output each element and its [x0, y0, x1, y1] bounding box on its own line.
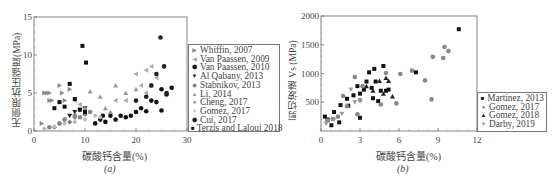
- data-point: [423, 78, 428, 83]
- scatter-plot-b: 500100015002000036912: [0, 0, 556, 184]
- figure-b: 500100015002000036912 剪切波速 Vs (MPa) 碳酸钙含…: [0, 0, 556, 184]
- data-point: [410, 68, 415, 73]
- data-point: [352, 100, 357, 105]
- data-point: [358, 92, 362, 96]
- data-point: [332, 110, 336, 114]
- data-point: [365, 80, 369, 84]
- data-point: [429, 97, 434, 102]
- data-point: [377, 78, 382, 83]
- data-point: [336, 114, 341, 119]
- data-point: [324, 122, 329, 127]
- data-point: [414, 70, 418, 74]
- data-point: [341, 94, 346, 99]
- data-point: [371, 96, 375, 100]
- data-point: [337, 120, 341, 124]
- data-point: [387, 88, 391, 92]
- data-point: [379, 89, 383, 93]
- x-tick-label: 9: [436, 135, 441, 145]
- data-point: [345, 104, 350, 109]
- data-point: [442, 45, 447, 50]
- caption-b: (b): [397, 163, 409, 174]
- x-tick-label: 12: [473, 135, 482, 145]
- data-point: [374, 80, 378, 84]
- x-tick-label: 0: [319, 135, 324, 145]
- data-point: [398, 72, 403, 77]
- data-point: [376, 99, 380, 103]
- data-point: [390, 94, 395, 99]
- data-point: [384, 76, 389, 81]
- data-point: [381, 64, 385, 68]
- data-point: [353, 75, 358, 80]
- legend-b: ■Martinez, 2013●Gomez, 2017▲Gomez, 2018▼…: [477, 92, 547, 132]
- data-point: [348, 88, 353, 93]
- data-point: [345, 97, 349, 101]
- data-point: [339, 112, 344, 117]
- data-point: [358, 116, 362, 120]
- legend-item: ▼Darby, 2019: [480, 120, 544, 129]
- data-point: [441, 56, 446, 61]
- data-point: [457, 27, 461, 31]
- data-point: [394, 101, 399, 106]
- data-point: [352, 93, 356, 97]
- y-axis-label-b: 剪切波速 Vs (MPa): [286, 30, 300, 120]
- legend-label: Darby, 2019: [489, 120, 535, 129]
- legend-marker-icon: ●: [480, 103, 487, 112]
- y-tick-label: 500: [306, 97, 320, 107]
- data-point: [446, 49, 451, 54]
- legend-marker-icon: ■: [480, 94, 485, 103]
- legend-marker-icon: ▲: [480, 111, 487, 120]
- data-point: [379, 102, 384, 107]
- legend-marker-icon: ▼: [480, 120, 487, 129]
- y-tick-label: 1000: [301, 69, 320, 79]
- y-tick-label: 2000: [301, 11, 320, 21]
- y-tick-label: 1500: [301, 40, 320, 50]
- data-point: [431, 55, 436, 60]
- data-point: [339, 103, 343, 107]
- data-point: [372, 67, 376, 71]
- data-point: [360, 84, 365, 89]
- x-tick-label: 6: [397, 135, 402, 145]
- x-axis-label-b: 碳酸钙含量(%): [376, 148, 441, 163]
- data-point: [384, 71, 389, 76]
- x-tick-label: 3: [358, 135, 363, 145]
- data-point: [355, 112, 360, 117]
- data-point: [355, 84, 359, 88]
- data-point: [367, 70, 371, 74]
- data-point: [329, 123, 333, 127]
